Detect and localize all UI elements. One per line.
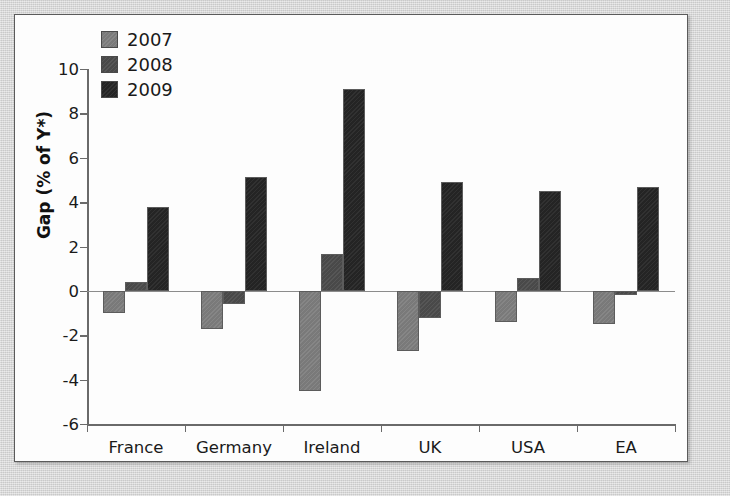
bar-germany-2009 bbox=[245, 177, 267, 291]
y-axis-tick bbox=[80, 113, 87, 114]
y-axis-line bbox=[87, 69, 89, 424]
x-axis-tick bbox=[577, 424, 578, 432]
y-axis-tick bbox=[80, 380, 87, 381]
bar-ireland-2008 bbox=[321, 254, 343, 291]
x-axis-tick-label: USA bbox=[511, 438, 545, 457]
bar-uk-2008 bbox=[419, 291, 441, 318]
y-axis-tick bbox=[80, 158, 87, 159]
y-axis-tick-labels: 1086420-2-4-6 bbox=[37, 15, 79, 463]
legend-label: 2008 bbox=[127, 56, 173, 74]
legend-item-2008: 2008 bbox=[101, 52, 173, 77]
y-axis-tick-label: 0 bbox=[37, 281, 79, 300]
x-axis-tick bbox=[185, 424, 186, 432]
y-axis-tick bbox=[80, 335, 87, 336]
x-axis-tick bbox=[87, 424, 88, 432]
y-axis-tick bbox=[80, 202, 87, 203]
y-axis-tick-label: -2 bbox=[37, 326, 79, 345]
legend-swatch-icon bbox=[101, 31, 118, 48]
bar-ea-2007 bbox=[593, 291, 615, 324]
y-axis-tick bbox=[80, 69, 87, 70]
bar-france-2007 bbox=[103, 291, 125, 313]
figure-container: Gap (% of Y*) 1086420-2-4-6 FranceGerman… bbox=[0, 0, 730, 496]
y-axis-tick-label: 2 bbox=[37, 237, 79, 256]
bar-usa-2008 bbox=[517, 278, 539, 291]
y-axis-tick bbox=[80, 247, 87, 248]
x-axis-tick bbox=[479, 424, 480, 432]
y-axis-tick-label: 10 bbox=[37, 60, 79, 79]
x-axis-tick-label: Ireland bbox=[303, 438, 360, 457]
bar-uk-2007 bbox=[397, 291, 419, 351]
y-axis-tick bbox=[80, 424, 87, 425]
legend-item-2007: 2007 bbox=[101, 27, 173, 52]
y-axis-tick-label: 4 bbox=[37, 193, 79, 212]
plot-area: Gap (% of Y*) 1086420-2-4-6 FranceGerman… bbox=[15, 15, 689, 463]
bar-germany-2007 bbox=[201, 291, 223, 329]
bar-ireland-2007 bbox=[299, 291, 321, 391]
chart-panel: Gap (% of Y*) 1086420-2-4-6 FranceGerman… bbox=[14, 14, 688, 462]
x-axis-tick-label: France bbox=[109, 438, 164, 457]
x-axis-tick-label: UK bbox=[419, 438, 442, 457]
bar-ea-2009 bbox=[637, 187, 659, 291]
bar-ireland-2009 bbox=[343, 89, 365, 291]
y-axis-tick-label: -6 bbox=[37, 415, 79, 434]
bar-uk-2009 bbox=[441, 182, 463, 291]
zero-baseline bbox=[87, 291, 675, 292]
bar-usa-2009 bbox=[539, 191, 561, 291]
y-axis-tick-label: -4 bbox=[37, 370, 79, 389]
legend-swatch-icon bbox=[101, 56, 118, 73]
y-axis-tick-label: 8 bbox=[37, 104, 79, 123]
bar-ea-2008 bbox=[615, 291, 637, 295]
legend-swatch-icon bbox=[101, 81, 118, 98]
x-axis-tick bbox=[675, 424, 676, 432]
x-axis-tick bbox=[283, 424, 284, 432]
bar-france-2008 bbox=[125, 282, 147, 291]
bar-france-2009 bbox=[147, 207, 169, 291]
x-axis-tick bbox=[381, 424, 382, 432]
bar-germany-2008 bbox=[223, 291, 245, 304]
x-axis-tick-label: Germany bbox=[196, 438, 272, 457]
chart-legend: 200720082009 bbox=[101, 27, 173, 102]
legend-label: 2009 bbox=[127, 81, 173, 99]
legend-item-2009: 2009 bbox=[101, 77, 173, 102]
bar-usa-2007 bbox=[495, 291, 517, 322]
legend-label: 2007 bbox=[127, 31, 173, 49]
y-axis-tick-label: 6 bbox=[37, 148, 79, 167]
x-axis-tick-label: EA bbox=[615, 438, 637, 457]
y-axis-tick bbox=[80, 291, 87, 292]
